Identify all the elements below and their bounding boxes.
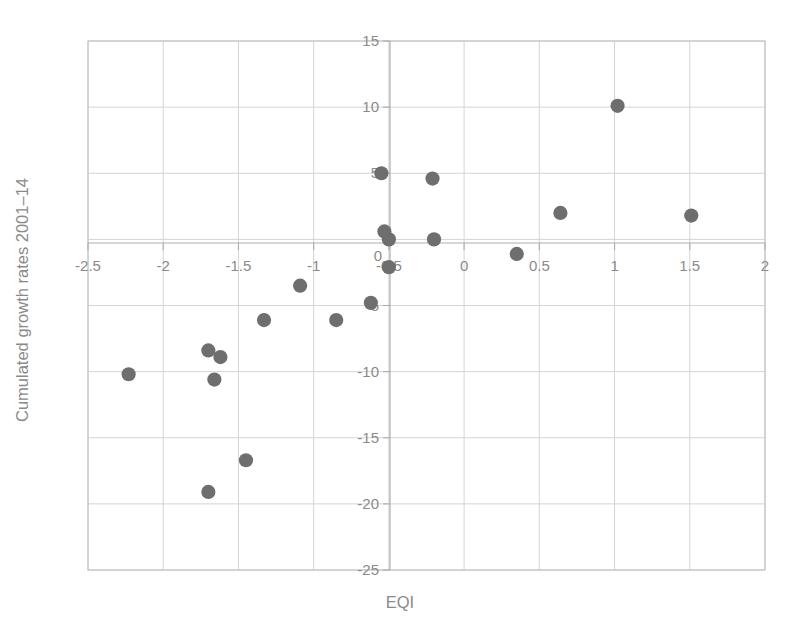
- data-point: [239, 453, 253, 467]
- data-point: [329, 313, 343, 327]
- x-tick-label: 1.5: [679, 257, 700, 274]
- data-point: [610, 99, 624, 113]
- x-tick-label: 2: [761, 257, 769, 274]
- data-point: [213, 350, 227, 364]
- x-tick-label: -1.5: [226, 257, 252, 274]
- y-tick-label: -25: [357, 561, 379, 578]
- x-tick-label: 1: [610, 257, 618, 274]
- chart-background: [0, 0, 802, 632]
- y-tick-label: -10: [357, 363, 379, 380]
- x-tick-label: 0.5: [529, 257, 550, 274]
- x-tick-label: 0: [460, 257, 468, 274]
- data-point: [684, 208, 698, 222]
- x-tick-label: -2.5: [75, 257, 101, 274]
- y-tick-label: -20: [357, 495, 379, 512]
- x-axis-title: EQI: [386, 593, 414, 611]
- y-tick-label: -15: [357, 429, 379, 446]
- data-point: [382, 232, 396, 246]
- data-point: [425, 171, 439, 185]
- data-point: [510, 247, 524, 261]
- data-point: [257, 313, 271, 327]
- y-axis-title: Cumulated growth rates 2001–14: [13, 178, 31, 422]
- scatter-chart-figure: -2.5-2-1.5-1-0.500.511.52 151050-5-10-15…: [0, 0, 802, 632]
- data-point: [374, 166, 388, 180]
- data-point: [427, 232, 441, 246]
- y-tick-label: 0: [374, 247, 382, 264]
- y-tick-label: 15: [362, 32, 379, 49]
- data-point: [382, 260, 396, 274]
- y-tick-label: 10: [362, 98, 379, 115]
- data-point: [201, 485, 215, 499]
- x-tick-label: -1: [307, 257, 320, 274]
- data-point: [553, 206, 567, 220]
- data-point: [293, 279, 307, 293]
- x-tick-label: -2: [157, 257, 170, 274]
- data-point: [207, 372, 221, 386]
- data-point: [201, 343, 215, 357]
- data-point: [122, 367, 136, 381]
- data-point: [364, 296, 378, 310]
- chart-canvas: -2.5-2-1.5-1-0.500.511.52 151050-5-10-15…: [0, 0, 802, 632]
